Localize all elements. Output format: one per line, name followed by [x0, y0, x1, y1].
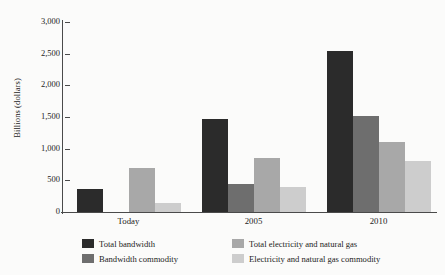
bars-layer [62, 22, 437, 212]
legend-swatch-icon [82, 239, 94, 248]
y-axis-tick-label: 3,000 [41, 16, 60, 26]
bar[interactable] [202, 119, 228, 212]
y-axis-tick-label: 1,500 [41, 111, 60, 121]
legend-item[interactable]: Electricity and natural gas commodity [232, 254, 422, 264]
plot-area: 3,0002,5002,0001,5001,0005000 [62, 22, 437, 212]
legend-swatch-icon [82, 254, 94, 263]
bar-group [77, 22, 181, 212]
x-axis-category-label: Today [77, 216, 181, 226]
legend-label: Bandwidth commodity [99, 254, 178, 264]
bar-group [327, 22, 431, 212]
bar-group [202, 22, 306, 212]
legend-item[interactable]: Bandwidth commodity [82, 254, 232, 264]
bar[interactable] [353, 116, 379, 212]
bar[interactable] [327, 51, 353, 213]
legend-swatch-icon [232, 239, 244, 248]
bar[interactable] [379, 142, 405, 212]
legend-swatch-icon [232, 254, 244, 263]
y-axis-tick-label: 1,000 [41, 143, 60, 153]
bar[interactable] [254, 158, 280, 212]
y-axis-tick-label: 2,000 [41, 79, 60, 89]
y-axis-title-label: Billions (dollars) [12, 78, 22, 138]
bar[interactable] [129, 168, 155, 212]
bar[interactable] [155, 203, 181, 213]
x-axis-category-label: 2005 [202, 216, 306, 226]
x-axis-line [61, 212, 437, 213]
legend-item[interactable]: Total electricity and natural gas [232, 239, 422, 249]
legend-label: Total bandwidth [99, 239, 155, 249]
legend-label: Electricity and natural gas commodity [249, 254, 380, 264]
chart-legend: Total bandwidthTotal electricity and nat… [82, 236, 422, 266]
bar[interactable] [280, 187, 306, 212]
legend-label: Total electricity and natural gas [249, 239, 357, 249]
bar-chart-figure: Billions (dollars) 3,0002,5002,0001,5001… [0, 0, 445, 275]
bar[interactable] [228, 184, 254, 213]
y-axis-tick-label: 500 [47, 174, 60, 184]
y-axis-tick-label: 2,500 [41, 48, 60, 58]
bar[interactable] [77, 189, 103, 212]
y-axis-tick-mark [65, 212, 70, 213]
bar[interactable] [405, 161, 431, 212]
x-axis-category-label: 2010 [327, 216, 431, 226]
legend-item[interactable]: Total bandwidth [82, 239, 232, 249]
y-axis-title: Billions (dollars) [6, 0, 28, 215]
y-axis-tick-label: 0 [56, 206, 60, 216]
